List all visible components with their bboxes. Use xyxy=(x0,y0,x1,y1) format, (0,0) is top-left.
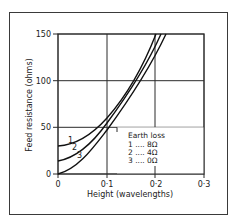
svg-text:50: 50 xyxy=(41,123,51,132)
x-axis-label: Height (wavelengths) xyxy=(87,190,173,199)
y-axis-label: Feed resistance (ohms) xyxy=(25,58,34,151)
svg-text:0: 0 xyxy=(55,180,60,189)
svg-text:0·2: 0·2 xyxy=(150,180,163,189)
svg-text:0·3: 0·3 xyxy=(198,180,211,189)
svg-text:Earth loss: Earth loss xyxy=(128,131,165,140)
x-tick-labels: 0 0·1 0·2 0·3 xyxy=(55,180,210,189)
y-tick-labels: 150 100 50 0 xyxy=(36,30,51,179)
svg-text:3: 3 xyxy=(77,151,82,160)
svg-text:3 .... 0Ω: 3 .... 0Ω xyxy=(128,156,158,165)
feed-resistance-chart: 1 2 3 150 100 50 0 0 0·1 0·2 0·3 Height … xyxy=(0,0,237,223)
svg-text:100: 100 xyxy=(36,77,51,86)
svg-text:0: 0 xyxy=(46,170,51,179)
svg-text:150: 150 xyxy=(36,30,51,39)
svg-text:0·1: 0·1 xyxy=(101,180,114,189)
